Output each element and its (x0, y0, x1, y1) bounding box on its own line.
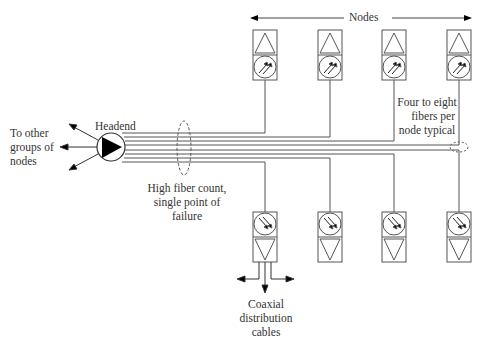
label-line: fibers per (397, 109, 457, 123)
coax-note: Coaxial distribution cables (235, 297, 297, 339)
label-line: Coaxial (235, 297, 297, 311)
fibers-per-node-note: Four to eight fibers per node typical (397, 95, 457, 137)
node-bottom-2 (318, 212, 342, 262)
label-line: single point of (142, 195, 232, 209)
fiber-node-diagram (0, 0, 481, 348)
label-line: To other (10, 126, 54, 140)
label-line: failure (142, 209, 232, 223)
node-bottom-4 (447, 212, 471, 262)
label-line: High fiber count, (142, 181, 232, 195)
nodes-label: Nodes (347, 10, 380, 24)
headend-label: Headend (95, 119, 136, 133)
node-top-2 (318, 30, 342, 80)
coax-arrows (237, 262, 294, 293)
label-line: distribution (235, 311, 297, 325)
node-bottom-3 (382, 212, 406, 262)
label-line: Four to eight (397, 95, 457, 109)
bundle-highlight-ellipse (177, 121, 191, 175)
to-other-groups-arrows (60, 124, 98, 170)
to-other-groups-label: To other groups of nodes (10, 126, 54, 168)
label-line: groups of (10, 140, 54, 154)
label-line: cables (235, 325, 297, 339)
node-bottom-1 (253, 212, 277, 262)
label-line: node typical (397, 123, 457, 137)
headend-icon (97, 133, 125, 161)
fiber-bundle-note: High fiber count, single point of failur… (142, 181, 232, 223)
label-line: nodes (10, 154, 54, 168)
node-top-3 (382, 30, 406, 80)
node-top-1 (253, 30, 277, 80)
node-top-4 (447, 30, 471, 80)
